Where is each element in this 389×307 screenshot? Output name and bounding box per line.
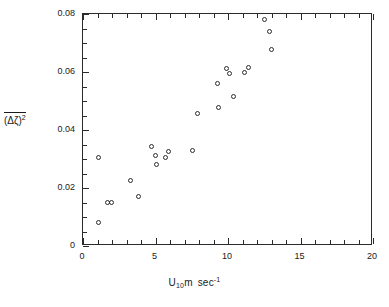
x-tick-top <box>199 14 200 18</box>
data-point <box>96 155 101 160</box>
data-point <box>163 155 168 160</box>
y-tick <box>83 29 87 30</box>
x-tick-top <box>170 14 171 18</box>
x-tick <box>272 240 273 244</box>
scatter-plot-figure: 00.020.040.060.08 (Δζ)2 05101520 U10msec… <box>0 0 389 307</box>
x-tick-top <box>98 14 99 18</box>
x-tick <box>330 240 331 244</box>
x-tick <box>112 240 113 244</box>
x-tick-label: 0 <box>79 252 84 261</box>
y-tick <box>83 203 87 204</box>
y-tick <box>83 246 89 247</box>
y-tick-label: 0 <box>70 241 75 250</box>
data-point <box>149 144 154 149</box>
x-axis-title-unit2: sec <box>198 277 214 288</box>
x-axis-title-unit: m <box>184 277 193 288</box>
x-tick-top <box>243 14 244 18</box>
y-tick <box>83 130 89 131</box>
x-tick <box>301 238 302 244</box>
x-tick-top <box>272 14 273 18</box>
x-tick <box>127 240 128 244</box>
y-axis-title-base: (Δζ) <box>4 115 22 126</box>
x-tick-top <box>185 14 186 18</box>
x-tick <box>373 238 374 244</box>
y-tick <box>83 217 87 218</box>
y-tick <box>83 116 87 117</box>
data-point <box>96 220 101 225</box>
plot-area <box>82 13 372 245</box>
x-tick <box>83 238 84 244</box>
x-tick-label: 5 <box>152 252 157 261</box>
y-tick-label: 0.06 <box>57 67 75 76</box>
data-point <box>154 162 159 167</box>
y-tick <box>83 145 87 146</box>
y-tick <box>83 72 89 73</box>
x-tick-top <box>156 14 157 20</box>
x-tick <box>98 240 99 244</box>
data-point <box>267 29 272 34</box>
y-tick <box>83 14 89 15</box>
data-point <box>242 70 247 75</box>
x-tick <box>359 240 360 244</box>
y-tick <box>83 188 89 189</box>
x-tick-top <box>344 14 345 18</box>
x-tick <box>315 240 316 244</box>
y-tick <box>83 159 87 160</box>
x-tick-label: 20 <box>367 252 377 261</box>
data-point <box>227 71 232 76</box>
x-tick-top <box>359 14 360 18</box>
x-tick-top <box>141 14 142 18</box>
x-tick <box>170 240 171 244</box>
x-axis-title: U10msec-1 <box>0 276 389 289</box>
x-tick-top <box>127 14 128 18</box>
x-tick-top <box>301 14 302 20</box>
y-tick-label: 0.04 <box>57 125 75 134</box>
y-axis-title-superscript: 2 <box>22 114 26 121</box>
x-tick <box>214 240 215 244</box>
data-point <box>190 148 195 153</box>
data-point <box>136 194 141 199</box>
data-point <box>215 81 220 86</box>
y-tick <box>83 232 87 233</box>
x-tick <box>286 240 287 244</box>
y-tick <box>83 87 87 88</box>
y-tick <box>83 43 87 44</box>
x-tick <box>344 240 345 244</box>
y-tick <box>83 101 87 102</box>
x-tick-label: 10 <box>222 252 232 261</box>
x-tick-top <box>112 14 113 18</box>
x-tick <box>243 240 244 244</box>
x-tick-top <box>286 14 287 18</box>
x-axis-title-subscript: 10 <box>176 282 184 289</box>
x-tick <box>156 238 157 244</box>
data-point <box>262 17 267 22</box>
x-tick-label: 15 <box>294 252 304 261</box>
data-point <box>231 94 236 99</box>
data-point <box>195 111 200 116</box>
x-tick <box>199 240 200 244</box>
y-tick <box>83 174 87 175</box>
x-tick-top <box>373 14 374 20</box>
x-axis-title-superscript: -1 <box>214 276 221 283</box>
data-point <box>128 178 133 183</box>
data-point <box>109 200 114 205</box>
y-axis-title: (Δζ)2 <box>4 112 26 126</box>
y-tick-label: 0.08 <box>57 9 75 18</box>
y-tick <box>83 58 87 59</box>
data-point <box>246 65 251 70</box>
x-tick-top <box>330 14 331 18</box>
x-tick <box>185 240 186 244</box>
data-point <box>216 105 221 110</box>
data-point <box>153 153 158 158</box>
data-point <box>269 47 274 52</box>
x-tick-top <box>228 14 229 20</box>
data-point <box>166 149 171 154</box>
x-tick <box>141 240 142 244</box>
x-tick-top <box>315 14 316 18</box>
x-tick-top <box>257 14 258 18</box>
x-axis-title-symbol: U <box>169 277 176 288</box>
y-tick-label: 0.02 <box>57 183 75 192</box>
x-tick-top <box>214 14 215 18</box>
x-tick <box>228 238 229 244</box>
x-tick <box>257 240 258 244</box>
